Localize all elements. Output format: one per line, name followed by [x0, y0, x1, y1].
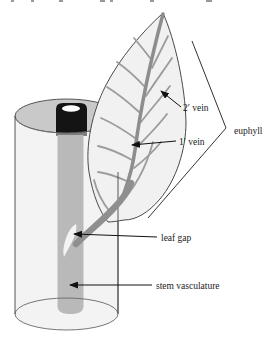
label-euphyll: euphyll: [234, 126, 263, 136]
figure-canvas: 2′ vein 1′ vein euphyll leaf gap stem va…: [0, 0, 267, 340]
label-primary-vein: 1′ vein: [179, 137, 205, 147]
label-stem-vasculature: stem vasculature: [156, 281, 220, 291]
stem-cap-highlight-icon: [62, 105, 80, 111]
diagram-svg: 2′ vein 1′ vein euphyll leaf gap stem va…: [0, 0, 267, 340]
label-secondary-vein: 2′ vein: [183, 103, 209, 113]
label-leaf-gap: leaf gap: [161, 233, 192, 243]
cropped-caption-fragments: [11, 0, 212, 2]
euphyll-bracket-upper: [192, 41, 226, 128]
